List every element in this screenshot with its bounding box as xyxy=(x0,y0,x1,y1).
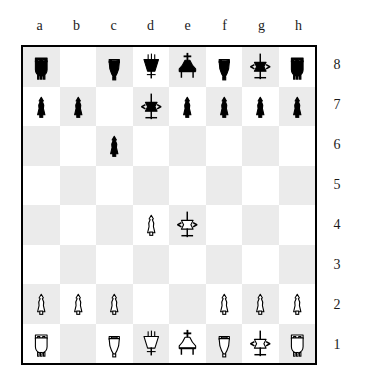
piece-white-bishop[interactable] xyxy=(96,324,133,364)
rank-label-1: 1 xyxy=(324,325,350,365)
square-e3[interactable] xyxy=(169,245,206,285)
piece-black-rook[interactable] xyxy=(23,47,60,87)
square-b2[interactable] xyxy=(60,284,97,324)
square-b1[interactable] xyxy=(60,324,97,364)
square-d8[interactable] xyxy=(133,47,170,87)
square-b3[interactable] xyxy=(60,245,97,285)
piece-white-king[interactable] xyxy=(169,324,206,364)
piece-white-pawn[interactable] xyxy=(23,284,60,324)
square-f8[interactable] xyxy=(206,47,243,87)
square-h3[interactable] xyxy=(279,245,316,285)
square-c8[interactable] xyxy=(96,47,133,87)
piece-white-pawn[interactable] xyxy=(242,284,279,324)
square-e1[interactable] xyxy=(169,324,206,364)
piece-black-knight[interactable] xyxy=(242,47,279,87)
square-e4[interactable] xyxy=(169,205,206,245)
square-f1[interactable] xyxy=(206,324,243,364)
square-c2[interactable] xyxy=(96,284,133,324)
square-f5[interactable] xyxy=(206,166,243,206)
square-f3[interactable] xyxy=(206,245,243,285)
square-c4[interactable] xyxy=(96,205,133,245)
piece-white-pawn[interactable] xyxy=(206,284,243,324)
square-b5[interactable] xyxy=(60,166,97,206)
piece-black-bishop[interactable] xyxy=(206,47,243,87)
square-h4[interactable] xyxy=(279,205,316,245)
piece-white-bishop[interactable] xyxy=(206,324,243,364)
square-h1[interactable] xyxy=(279,324,316,364)
square-a1[interactable] xyxy=(23,324,60,364)
piece-black-pawn[interactable] xyxy=(279,87,316,127)
square-g6[interactable] xyxy=(242,126,279,166)
square-d7[interactable] xyxy=(133,87,170,127)
square-a5[interactable] xyxy=(23,166,60,206)
square-f4[interactable] xyxy=(206,205,243,245)
piece-white-queen[interactable] xyxy=(133,324,170,364)
piece-black-pawn[interactable] xyxy=(60,87,97,127)
square-c7[interactable] xyxy=(96,87,133,127)
piece-black-rook[interactable] xyxy=(279,47,316,87)
square-a3[interactable] xyxy=(23,245,60,285)
square-h8[interactable] xyxy=(279,47,316,87)
square-h5[interactable] xyxy=(279,166,316,206)
piece-white-rook[interactable] xyxy=(279,324,316,364)
file-label-e: e xyxy=(169,14,206,38)
piece-black-pawn[interactable] xyxy=(96,126,133,166)
square-d1[interactable] xyxy=(133,324,170,364)
square-a6[interactable] xyxy=(23,126,60,166)
square-d5[interactable] xyxy=(133,166,170,206)
square-f7[interactable] xyxy=(206,87,243,127)
piece-white-pawn[interactable] xyxy=(133,205,170,245)
square-b7[interactable] xyxy=(60,87,97,127)
piece-black-knight[interactable] xyxy=(133,87,170,127)
square-d2[interactable] xyxy=(133,284,170,324)
piece-black-pawn[interactable] xyxy=(242,87,279,127)
square-c6[interactable] xyxy=(96,126,133,166)
square-f2[interactable] xyxy=(206,284,243,324)
square-d4[interactable] xyxy=(133,205,170,245)
square-b6[interactable] xyxy=(60,126,97,166)
square-h6[interactable] xyxy=(279,126,316,166)
piece-white-knight[interactable] xyxy=(242,324,279,364)
piece-black-bishop[interactable] xyxy=(96,47,133,87)
piece-black-pawn[interactable] xyxy=(23,87,60,127)
square-h7[interactable] xyxy=(279,87,316,127)
square-c1[interactable] xyxy=(96,324,133,364)
piece-white-pawn[interactable] xyxy=(60,284,97,324)
file-label-d: d xyxy=(132,14,169,38)
square-f6[interactable] xyxy=(206,126,243,166)
square-d6[interactable] xyxy=(133,126,170,166)
square-c3[interactable] xyxy=(96,245,133,285)
square-e8[interactable] xyxy=(169,47,206,87)
square-e6[interactable] xyxy=(169,126,206,166)
square-d3[interactable] xyxy=(133,245,170,285)
piece-black-queen[interactable] xyxy=(133,47,170,87)
square-g7[interactable] xyxy=(242,87,279,127)
square-c5[interactable] xyxy=(96,166,133,206)
square-a8[interactable] xyxy=(23,47,60,87)
square-e2[interactable] xyxy=(169,284,206,324)
square-a7[interactable] xyxy=(23,87,60,127)
rank-label-7: 7 xyxy=(324,85,350,125)
piece-white-knight[interactable] xyxy=(169,205,206,245)
piece-white-pawn[interactable] xyxy=(279,284,316,324)
square-h2[interactable] xyxy=(279,284,316,324)
square-e5[interactable] xyxy=(169,166,206,206)
chessboard[interactable] xyxy=(21,45,317,365)
square-b4[interactable] xyxy=(60,205,97,245)
file-coordinate-labels: abcdefgh xyxy=(21,14,317,38)
square-g2[interactable] xyxy=(242,284,279,324)
square-b8[interactable] xyxy=(60,47,97,87)
square-g4[interactable] xyxy=(242,205,279,245)
square-g3[interactable] xyxy=(242,245,279,285)
piece-black-pawn[interactable] xyxy=(169,87,206,127)
square-a2[interactable] xyxy=(23,284,60,324)
square-g1[interactable] xyxy=(242,324,279,364)
square-g8[interactable] xyxy=(242,47,279,87)
square-e7[interactable] xyxy=(169,87,206,127)
piece-white-rook[interactable] xyxy=(23,324,60,364)
piece-black-king[interactable] xyxy=(169,47,206,87)
piece-black-pawn[interactable] xyxy=(206,87,243,127)
square-a4[interactable] xyxy=(23,205,60,245)
square-g5[interactable] xyxy=(242,166,279,206)
piece-white-pawn[interactable] xyxy=(96,284,133,324)
